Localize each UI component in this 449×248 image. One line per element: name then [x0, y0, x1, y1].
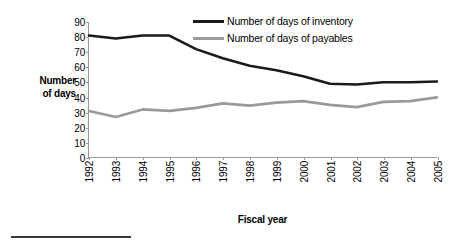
x-axis-tick-label: 2000 — [298, 161, 309, 182]
x-axis-tick-mark — [116, 157, 117, 160]
y-axis-tick-mark — [86, 37, 89, 38]
x-axis-tick-label: 1993 — [110, 161, 121, 182]
legend-item-inventory: Number of days of inventory — [193, 14, 353, 28]
x-axis-tick-mark — [304, 157, 305, 160]
series-line — [89, 97, 437, 117]
x-axis-tick-mark — [143, 157, 144, 160]
legend-label-inventory: Number of days of inventory — [227, 15, 353, 27]
chart-legend: Number of days of inventory Number of da… — [193, 14, 353, 48]
x-axis-tick-label: 1994 — [137, 161, 148, 182]
x-axis-tick-label: 2003 — [379, 161, 390, 182]
y-axis-title-line-2: of days — [8, 87, 76, 100]
x-axis-tick-label: 2004 — [406, 161, 417, 182]
x-axis-tick-label: 1995 — [164, 161, 175, 182]
x-axis-title: Fiscal year — [88, 214, 437, 225]
y-axis-tick-mark — [86, 98, 89, 99]
x-axis-tick-mark — [170, 157, 171, 160]
chart-page: Number of days 0102030405060708090199219… — [0, 0, 449, 248]
x-axis-tick-mark — [357, 157, 358, 160]
x-axis-tick-mark — [331, 157, 332, 160]
x-axis-tick-mark — [438, 157, 439, 160]
y-axis-tick-mark — [86, 22, 89, 23]
x-axis-tick-label: 1998 — [245, 161, 256, 182]
y-axis-tick-mark — [86, 82, 89, 83]
x-axis-tick-mark — [89, 157, 90, 160]
x-axis-tick-mark — [384, 157, 385, 160]
y-axis-tick-mark — [86, 128, 89, 129]
x-axis-tick-label: 1992 — [84, 161, 95, 182]
x-axis-tick-label: 1999 — [271, 161, 282, 182]
x-axis-tick-label: 1997 — [218, 161, 229, 182]
x-axis-tick-mark — [277, 157, 278, 160]
x-axis-tick-mark — [196, 157, 197, 160]
legend-item-payables: Number of days of payables — [193, 31, 353, 45]
x-axis-tick-label: 2001 — [325, 161, 336, 182]
legend-swatch-payables-icon — [193, 37, 224, 40]
legend-swatch-inventory-icon — [193, 20, 224, 23]
x-axis-tick-mark — [411, 157, 412, 160]
x-axis-tick-label: 2005 — [433, 161, 444, 182]
y-axis-tick-mark — [86, 113, 89, 114]
legend-label-payables: Number of days of payables — [227, 32, 353, 44]
y-axis-tick-mark — [86, 52, 89, 53]
x-axis-tick-mark — [250, 157, 251, 160]
footnote-rule — [11, 236, 131, 238]
x-axis-tick-mark — [223, 157, 224, 160]
y-axis-title-line-1: Number — [8, 74, 76, 87]
y-axis-tick-mark — [86, 143, 89, 144]
y-axis-tick-mark — [86, 67, 89, 68]
x-axis-tick-label: 2002 — [352, 161, 363, 182]
x-axis-tick-label: 1996 — [191, 161, 202, 182]
y-axis-title: Number of days — [8, 74, 76, 100]
